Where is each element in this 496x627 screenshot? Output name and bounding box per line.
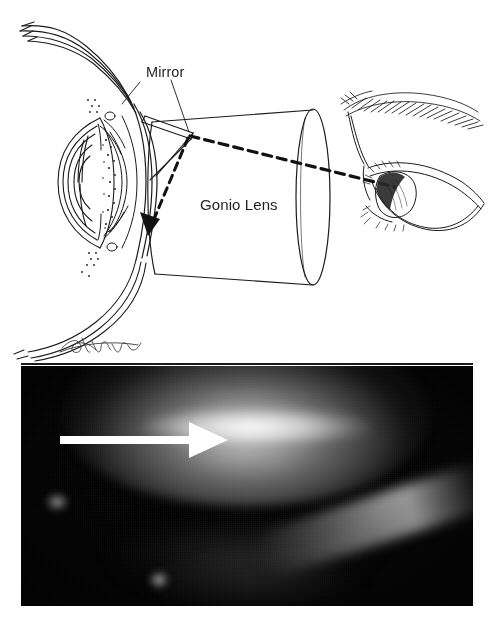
pupil [377,173,405,211]
mirror-leader-line [171,80,189,132]
sclera [20,22,136,113]
inferior-diagonal-streak [250,459,473,582]
arrow-shaft [60,436,193,444]
photo-vignette [21,366,473,606]
dashed-light-path [190,136,395,187]
arrow-head [189,422,228,458]
gonioscopy-figure: Mirror Gonio Lens [0,0,496,627]
gonio-lens-label: Gonio Lens [200,196,278,213]
gonioscopy-schematic-svg [0,0,496,368]
mirror-label: Mirror [146,64,184,80]
gonioscopy-schematic-panel: Mirror Gonio Lens [0,0,496,368]
specular-reflection-bottom [147,569,171,591]
angle-pointer-arrow [21,366,473,606]
gonio-lens-face [296,109,330,285]
specular-reflection-left [44,491,70,513]
superior-dome-glow [76,366,406,506]
observer-eye [348,112,484,231]
bright-core-highlight [141,404,371,450]
photo-grain-overlay [21,366,473,606]
figure-divider-line [21,363,473,365]
mid-field-haze [111,516,371,596]
gonio-lens-face-highlight [301,118,306,277]
inferior-haze [141,554,361,606]
gonioscopic-photograph [21,366,473,606]
superior-bright-band [61,366,431,506]
iris [98,124,127,240]
cornea-inner [122,116,137,248]
eyebrow [341,91,483,129]
